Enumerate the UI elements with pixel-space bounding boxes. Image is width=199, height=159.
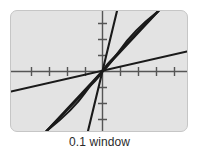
plot-panel [10,10,188,132]
plot-canvas [11,11,187,131]
figure-container: 0.1 window [0,0,199,159]
figure-caption: 0.1 window [0,134,199,150]
